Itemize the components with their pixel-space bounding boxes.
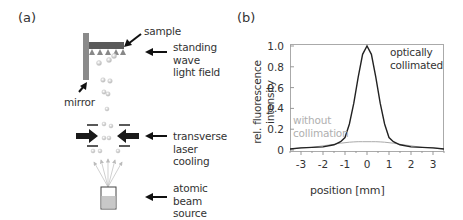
svg-text:-1: -1 xyxy=(340,158,350,170)
svg-text:-2: -2 xyxy=(318,158,328,170)
collimated-label-line-1: optically xyxy=(390,46,443,59)
collimated-label: optically collimated xyxy=(390,46,443,71)
svg-text:2: 2 xyxy=(408,158,415,170)
without-collimation-line-1: without xyxy=(293,114,349,127)
without-collimation-line-2: collimation xyxy=(293,127,349,140)
svg-text:1.0: 1.0 xyxy=(267,40,284,52)
collimated-label-line-2: collimated xyxy=(390,59,443,72)
svg-text:1: 1 xyxy=(386,158,393,170)
fluorescence-chart: 00.20.40.60.81.0 -3-2-10123 xyxy=(0,0,463,220)
svg-text:0.8: 0.8 xyxy=(267,61,284,73)
y-axis-ticks: 00.20.40.60.81.0 xyxy=(267,40,294,156)
x-axis-ticks: -3-2-10123 xyxy=(290,151,444,170)
without-collimation-label: without collimation xyxy=(293,114,349,139)
svg-text:0: 0 xyxy=(277,144,284,156)
svg-text:0.4: 0.4 xyxy=(267,102,284,114)
svg-text:0.2: 0.2 xyxy=(267,123,284,135)
svg-text:3: 3 xyxy=(430,158,437,170)
svg-text:0: 0 xyxy=(364,158,371,170)
svg-text:0.6: 0.6 xyxy=(267,82,284,94)
svg-text:-3: -3 xyxy=(296,158,306,170)
x-axis-label: position [mm] xyxy=(310,185,384,198)
